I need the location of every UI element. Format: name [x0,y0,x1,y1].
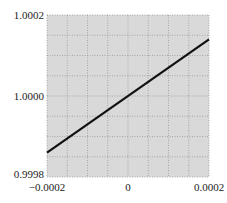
x-tick-label-mid: 0 [125,181,131,193]
chart: 1.0002 1.0000 0.9998 −0.0002 0 0.0002 [0,0,227,203]
y-tick-label-mid: 1.0000 [14,90,45,102]
y-tick-label-bottom: 0.9998 [14,168,45,180]
x-tick-label-right: 0.0002 [194,181,224,193]
y-tick-label-top: 1.0002 [14,9,44,21]
x-tick-label-left: −0.0002 [29,181,65,193]
